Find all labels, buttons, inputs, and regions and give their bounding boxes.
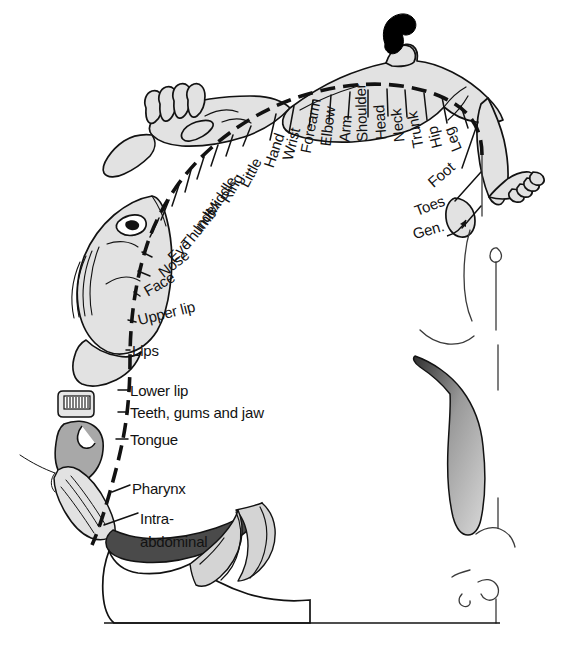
label-head: Head: [371, 104, 388, 140]
label-shoulder: Shoulder: [352, 83, 369, 142]
label-pharynx: Pharynx: [132, 481, 186, 496]
label-lower-lip: Lower lip: [130, 383, 188, 398]
label-arm: Arm: [337, 115, 354, 143]
teeth-icon: [58, 391, 94, 417]
label-lips: Lips: [132, 343, 159, 358]
label-intra: Intra-: [140, 511, 174, 526]
toe-4: [530, 172, 544, 185]
homunculus-diagram: [0, 0, 563, 650]
label-abdominal: abdominal: [140, 534, 207, 549]
label-tongue: Tongue: [130, 432, 178, 447]
label-teeth: Teeth, gums and jaw: [130, 405, 264, 420]
